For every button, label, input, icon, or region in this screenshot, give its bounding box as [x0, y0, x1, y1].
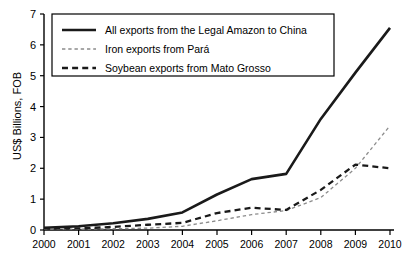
y-tick-label: 2 — [30, 162, 36, 174]
y-tick-label: 4 — [30, 101, 36, 113]
x-tick-label: 2001 — [67, 238, 91, 250]
legend-label-2: Soybean exports from Mato Grosso — [105, 62, 271, 74]
x-tick-label: 2004 — [171, 238, 195, 250]
line-chart: US$ Billions, FOB 01234567 2000200120022… — [0, 0, 419, 269]
x-axis-tick-labels: 2000200120022003200420052006200720082009… — [32, 238, 402, 250]
y-tick-label: 5 — [30, 70, 36, 82]
x-tick-label: 2008 — [309, 238, 333, 250]
x-axis-ticks — [44, 230, 390, 235]
legend-label-0: All exports from the Legal Amazon to Chi… — [105, 24, 307, 36]
x-tick-label: 2010 — [378, 238, 402, 250]
x-tick-label: 2009 — [344, 238, 368, 250]
x-tick-label: 2002 — [102, 238, 126, 250]
y-tick-label: 0 — [30, 224, 36, 236]
x-tick-label: 2006 — [240, 238, 264, 250]
y-tick-label: 1 — [30, 193, 36, 205]
x-tick-label: 2007 — [275, 238, 299, 250]
y-axis-tick-labels: 01234567 — [30, 8, 36, 236]
x-tick-label: 2003 — [136, 238, 160, 250]
y-tick-label: 3 — [30, 131, 36, 143]
y-tick-label: 6 — [30, 39, 36, 51]
x-tick-label: 2000 — [32, 238, 56, 250]
legend-label-1: Iron exports from Pará — [105, 43, 210, 55]
series-line-2 — [44, 165, 390, 229]
chart-container: US$ Billions, FOB 01234567 2000200120022… — [0, 0, 419, 269]
y-axis-title: US$ Billions, FOB — [11, 72, 23, 160]
x-tick-label: 2005 — [205, 238, 229, 250]
legend: All exports from the Legal Amazon to Chi… — [52, 14, 334, 76]
y-tick-label: 7 — [30, 8, 36, 20]
